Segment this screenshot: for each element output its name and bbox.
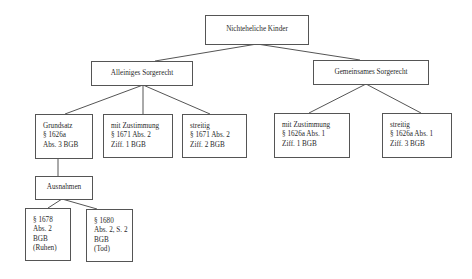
node-line: § 1678 [33, 216, 70, 225]
node-gemeinsames-streitig: streitig § 1626a Abs. 1 Ziff. 3 BGB [382, 113, 452, 158]
node-para-1680: § 1680 Abs. 2, S. 2 BGB (Tod) [86, 209, 133, 262]
node-line: Ziff. 3 BGB [390, 140, 451, 149]
connector-ausnahmen-1678 [48, 199, 62, 208]
node-gemeinsames-sorgerecht: Gemeinsames Sorgerecht [313, 60, 429, 85]
node-grundsatz: Grundsatz § 1626a Abs. 3 BGB [35, 114, 93, 159]
node-line: streitig [390, 121, 451, 130]
connector-alleiniges-streitig [143, 85, 210, 114]
connector-gemeinsames-zustimmung [309, 84, 366, 113]
node-ausnahmen: Ausnahmen [35, 176, 93, 200]
node-nichteheliche-kinder: Nichteheliche Kinder [205, 15, 309, 45]
node-line: BGB [33, 235, 70, 244]
node-line: Ziff. 2 BGB [190, 141, 246, 150]
node-line: § 1671 Abs. 2 [190, 131, 246, 140]
node-alleiniges-sorgerecht: Alleiniges Sorgerecht [91, 61, 193, 86]
connector-alleiniges-grundsatz [65, 85, 143, 114]
node-label: Gemeinsames Sorgerecht [334, 68, 407, 77]
node-alleiniges-streitig: streitig § 1671 Abs. 2 Ziff. 2 BGB [182, 114, 247, 158]
node-line: mit Zustimmung [282, 121, 349, 130]
node-line: § 1671 Abs. 2 [111, 131, 172, 140]
node-line: Abs. 2, S. 2 [94, 226, 132, 235]
node-line: Ziff. 1 BGB [282, 140, 349, 149]
node-line: § 1626a Abs. 1 [390, 130, 451, 139]
node-line: Grundsatz [43, 122, 92, 131]
node-line: Ziff. 1 BGB [111, 141, 172, 150]
connector-root-alleiniges [155, 44, 257, 61]
connector-gemeinsames-streitig [366, 84, 421, 113]
node-line: BGB [94, 236, 132, 245]
node-line: Abs. 3 BGB [43, 141, 92, 150]
node-gemeinsames-mit-zustimmung: mit Zustimmung § 1626a Abs. 1 Ziff. 1 BG… [274, 113, 350, 158]
node-para-1678: § 1678 Abs. 2 BGB (Ruhen) [25, 208, 71, 261]
node-label: Ausnahmen [47, 183, 81, 192]
node-line: § 1626a Abs. 1 [282, 130, 349, 139]
node-line: (Tod) [94, 245, 132, 254]
node-line: (Ruhen) [33, 244, 70, 253]
node-line: Abs. 2 [33, 225, 70, 234]
node-label: Alleiniges Sorgerecht [111, 69, 173, 78]
node-label: Nichteheliche Kinder [226, 25, 288, 34]
node-line: streitig [190, 122, 246, 131]
node-line: § 1680 [94, 217, 132, 226]
connector-root-gemeinsames [257, 44, 360, 60]
node-line: mit Zustimmung [111, 122, 172, 131]
node-line: § 1626a [43, 131, 92, 140]
node-alleiniges-mit-zustimmung: mit Zustimmung § 1671 Abs. 2 Ziff. 1 BGB [103, 114, 173, 158]
